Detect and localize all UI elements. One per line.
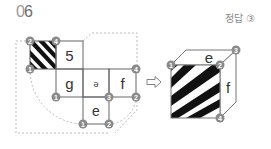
arrow-right-icon xyxy=(147,77,161,88)
net-face-label-top: 5 xyxy=(65,47,73,64)
cube-marker: 2 xyxy=(216,61,225,70)
cube-marker: 4 xyxy=(216,114,225,123)
svg-text:2: 2 xyxy=(218,62,222,69)
net-face-label-bottom: e xyxy=(92,103,100,119)
svg-text:1: 1 xyxy=(28,66,32,73)
net-marker: 1 xyxy=(52,93,61,102)
svg-text:4: 4 xyxy=(134,66,138,73)
net-face-label-center: ə xyxy=(93,79,98,89)
cube-face-label-top: e xyxy=(205,49,213,66)
svg-text:3: 3 xyxy=(107,94,111,101)
net-face-label-left: g xyxy=(65,75,73,92)
cube-marker: 3 xyxy=(232,46,241,55)
svg-text:1: 1 xyxy=(54,94,58,101)
cube-front-face xyxy=(171,65,220,118)
net-marker: 4 xyxy=(132,65,141,74)
svg-text:4: 4 xyxy=(54,38,58,45)
net-marker: 2 xyxy=(132,93,141,102)
cube-marker: 1 xyxy=(167,61,176,70)
svg-text:1: 1 xyxy=(81,121,85,128)
svg-text:3: 3 xyxy=(234,47,238,54)
net-marker: 1 xyxy=(26,65,35,74)
svg-text:2: 2 xyxy=(107,121,111,128)
net-marker: 3 xyxy=(105,93,114,102)
net-marker: 4 xyxy=(52,37,61,46)
net-marker: 2 xyxy=(105,120,114,129)
diagram: 5 g ə f e 2 4 1 1 3 4 2 1 2 xyxy=(0,0,271,149)
svg-text:2: 2 xyxy=(28,38,32,45)
net-marker: 1 xyxy=(79,120,88,129)
net-face-label-right: f xyxy=(120,75,125,92)
cube: e f xyxy=(171,49,236,118)
svg-text:2: 2 xyxy=(134,94,138,101)
svg-text:4: 4 xyxy=(218,115,222,122)
net-marker: 2 xyxy=(26,37,35,46)
svg-text:1: 1 xyxy=(169,62,173,69)
